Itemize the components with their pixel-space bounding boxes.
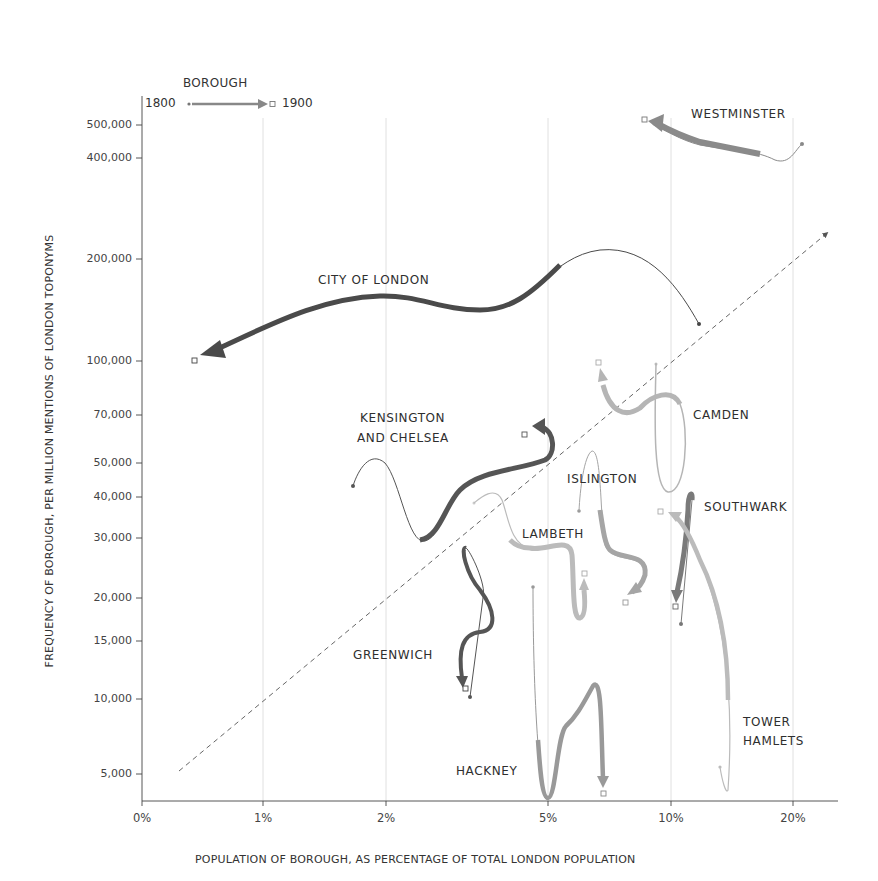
- ytick-label: 40,000: [52, 490, 132, 503]
- label-lambeth: LAMBETH: [522, 525, 584, 544]
- label-southwark: SOUTHWARK: [704, 498, 787, 517]
- ytick-label: 200,000: [52, 252, 132, 265]
- ytick-label: 15,000: [52, 634, 132, 647]
- ytick-label: 100,000: [52, 354, 132, 367]
- x-axis-title: POPULATION OF BOROUGH, AS PERCENTAGE OF …: [195, 853, 636, 866]
- label-islington: ISLINGTON: [567, 470, 637, 489]
- series-greenwich: [456, 548, 492, 699]
- legend-arrow: [187, 99, 275, 109]
- xtick-label: 20%: [768, 811, 818, 825]
- label-hackney: HACKNEY: [456, 762, 517, 781]
- y-axis-title: FREQUENCY OF BOROUGH, PER MILLION MENTIO…: [43, 235, 56, 668]
- label-tower-hamlets-1: TOWER: [743, 713, 791, 732]
- ytick-label: 50,000: [52, 456, 132, 469]
- xtick-label: 5%: [523, 811, 573, 825]
- series-tower-hamlets: [658, 509, 730, 791]
- ytick-label: 20,000: [52, 591, 132, 604]
- series-city-of-london: [192, 250, 701, 363]
- ytick-label: 5,000: [52, 767, 132, 780]
- xtick-label: 1%: [238, 811, 288, 825]
- label-westminster: WESTMINSTER: [691, 105, 786, 124]
- label-city-of-london: CITY OF LONDON: [318, 271, 429, 290]
- gridlines: [263, 118, 793, 801]
- ytick-label: 400,000: [52, 151, 132, 164]
- ytick-label: 30,000: [52, 531, 132, 544]
- ytick-label: 10,000: [52, 692, 132, 705]
- label-kensington-1: KENSINGTON: [360, 409, 445, 428]
- label-greenwich: GREENWICH: [353, 646, 433, 665]
- label-kensington-2: AND CHELSEA: [357, 429, 449, 448]
- series-lambeth: [473, 493, 590, 618]
- label-tower-hamlets-2: HAMLETS: [743, 732, 804, 751]
- xtick-label: 0%: [117, 811, 167, 825]
- xtick-label: 2%: [361, 811, 411, 825]
- axes: [136, 96, 838, 806]
- series-hackney: [531, 585, 609, 798]
- ytick-label: 70,000: [52, 408, 132, 421]
- ytick-label: 500,000: [52, 118, 132, 131]
- xtick-label: 10%: [646, 811, 696, 825]
- label-camden: CAMDEN: [693, 406, 749, 425]
